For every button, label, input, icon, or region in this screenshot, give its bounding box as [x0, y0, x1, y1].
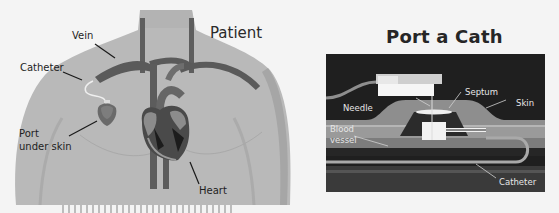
- septum-label: Septum: [465, 88, 498, 97]
- port-label-line1: Port: [19, 128, 39, 139]
- vein-label: Vein: [72, 30, 93, 41]
- catheter-section-label: Catheter: [499, 178, 536, 187]
- heart-label: Heart: [199, 185, 227, 196]
- needle-label: Needle: [343, 104, 373, 113]
- port-label-line2: under skin: [19, 141, 72, 152]
- port-a-cath-figure: Patient Vein Catheter Port under skin He…: [0, 0, 559, 213]
- port-reservoir: [422, 122, 446, 140]
- catheter-label: Catheter: [20, 62, 64, 73]
- patient-title: Patient: [210, 24, 262, 42]
- skin-label: Skin: [516, 99, 534, 108]
- port-a-cath-title: Port a Cath: [386, 26, 503, 47]
- blood-vessel-label-line2: vessel: [330, 136, 357, 145]
- needle-hub: [378, 84, 434, 96]
- figure-caption-clipped: [0, 205, 559, 213]
- blood-vessel-label-line1: Blood: [330, 125, 354, 134]
- septum: [416, 110, 452, 115]
- port-cross-section-illustration: [326, 54, 545, 192]
